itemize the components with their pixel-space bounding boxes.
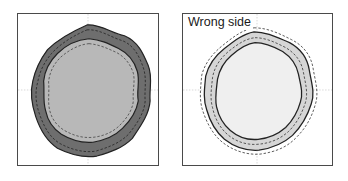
- right-side-circle-diagram: [18, 14, 158, 165]
- wrong-side-label: Wrong side: [188, 15, 253, 30]
- right-side-diagram-panel: [17, 13, 159, 166]
- wrong-side-circle-diagram: [183, 14, 332, 165]
- wrong-side-diagram-panel: Wrong side: [182, 13, 333, 166]
